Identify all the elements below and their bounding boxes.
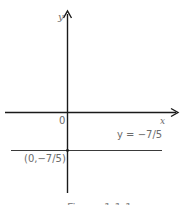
y-axis-label: y <box>58 12 64 22</box>
x-axis-label: x <box>160 117 165 126</box>
y-intercept-point <box>66 149 69 152</box>
intercept-point-label: (0,−7/5) <box>24 154 66 164</box>
coordinate-plane <box>0 0 184 205</box>
figure-caption: Figure 1.1.1 <box>67 201 132 205</box>
origin-label: 0 <box>59 116 65 126</box>
line-equation-label: y = −7/5 <box>117 130 162 140</box>
